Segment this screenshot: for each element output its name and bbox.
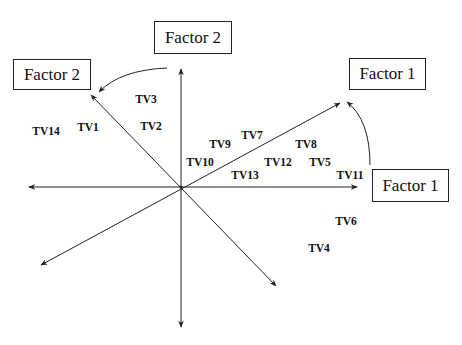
variable-label-tv13: TV13 bbox=[231, 169, 258, 181]
factor1-original-box: Factor 1 bbox=[372, 169, 449, 202]
factor2-original-label: Factor 2 bbox=[165, 28, 221, 48]
variable-label-tv9: TV9 bbox=[209, 138, 231, 150]
factor1-rotated-label: Factor 1 bbox=[359, 64, 415, 84]
variable-label-tv2: TV2 bbox=[140, 120, 162, 132]
factor2-rotated-box: Factor 2 bbox=[13, 59, 91, 90]
factor1-original-label: Factor 1 bbox=[382, 176, 438, 196]
variable-label-tv1: TV1 bbox=[77, 121, 99, 133]
variable-label-tv10: TV10 bbox=[186, 156, 213, 168]
factor-rotation-diagram: Factor 2 Factor 2 Factor 1 Factor 1 TV3 … bbox=[0, 0, 462, 345]
variable-label-tv4: TV4 bbox=[308, 242, 330, 254]
variable-label-tv11: TV11 bbox=[337, 169, 364, 181]
variable-label-tv7: TV7 bbox=[241, 129, 263, 141]
factor2-original-box: Factor 2 bbox=[154, 21, 232, 54]
factor1-rotated-box: Factor 1 bbox=[349, 58, 426, 90]
variable-label-tv12: TV12 bbox=[264, 156, 291, 168]
factor2-rotation-arrow bbox=[99, 68, 167, 92]
variable-label-tv5: TV5 bbox=[309, 156, 331, 168]
variable-label-tv8: TV8 bbox=[295, 138, 317, 150]
origin-point bbox=[180, 186, 183, 189]
rotated-factor2-axis bbox=[91, 95, 276, 286]
factor2-rotated-label: Factor 2 bbox=[24, 65, 80, 85]
variable-label-tv3: TV3 bbox=[135, 93, 157, 105]
variable-label-tv14: TV14 bbox=[32, 125, 59, 137]
factor1-rotation-arrow bbox=[347, 102, 370, 165]
variable-label-tv6: TV6 bbox=[335, 215, 357, 227]
